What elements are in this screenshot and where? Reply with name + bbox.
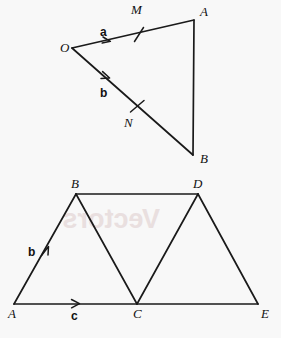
vertex-label-D: D <box>192 176 203 191</box>
tick-M-icon <box>135 28 144 42</box>
edge-DE <box>198 194 258 304</box>
geometry-figure-canvas: Vectors O A B M N <box>0 0 281 338</box>
edge-OA <box>72 20 194 48</box>
bleed-through-text-group: Vectors <box>62 204 160 234</box>
figure-root: Vectors O A B M N <box>0 0 281 338</box>
vector-label-b2: b <box>28 245 35 259</box>
edge-AB <box>193 20 194 155</box>
vector-label-a: a <box>100 25 107 39</box>
vector-label-c: c <box>71 309 78 323</box>
vertex-label-A2: A <box>7 306 16 321</box>
edge-OB <box>72 48 193 155</box>
vertex-label-A: A <box>199 4 208 19</box>
vertex-label-B: B <box>200 151 208 166</box>
midpoint-label-M: M <box>130 2 143 17</box>
bleed-through-text: Vectors <box>62 204 160 234</box>
edge-AB <box>14 194 76 304</box>
vertex-label-C: C <box>133 306 142 321</box>
figure-triangle-oab: O A B M N a b <box>60 2 208 166</box>
vertex-label-O: O <box>60 40 70 55</box>
figure-trapezium-abcde: A B C D E b c <box>7 176 269 323</box>
vector-label-b: b <box>100 86 107 100</box>
midpoint-label-N: N <box>123 115 134 130</box>
vertex-label-B2: B <box>71 176 79 191</box>
vertex-label-E: E <box>260 306 269 321</box>
